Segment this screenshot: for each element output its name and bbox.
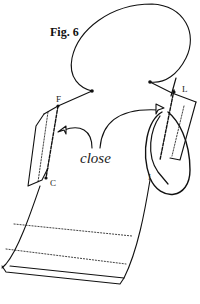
label-f: F bbox=[56, 94, 61, 104]
point-dot bbox=[148, 80, 152, 84]
body-left bbox=[2, 186, 40, 268]
thread-loop bbox=[146, 112, 190, 194]
label-i: I bbox=[148, 172, 151, 182]
label-l: L bbox=[182, 84, 188, 94]
label-c: C bbox=[50, 178, 56, 188]
annotation-close: close bbox=[80, 150, 111, 166]
loop-outline bbox=[71, 4, 190, 91]
point-dot bbox=[90, 89, 94, 93]
figure-title: Fig. 6 bbox=[50, 25, 79, 39]
hem-stitch-2 bbox=[6, 249, 126, 264]
point-f bbox=[56, 104, 59, 107]
sewing-diagram: Fig. 6 F C L I close bbox=[0, 0, 200, 304]
point-l bbox=[172, 90, 175, 93]
hem bbox=[2, 266, 124, 284]
left-flap bbox=[28, 114, 48, 186]
body-right bbox=[124, 180, 150, 278]
point-c bbox=[44, 176, 47, 179]
left-shoulder bbox=[44, 91, 92, 114]
hem-stitch-1 bbox=[14, 224, 132, 236]
arrow-left bbox=[64, 128, 92, 148]
